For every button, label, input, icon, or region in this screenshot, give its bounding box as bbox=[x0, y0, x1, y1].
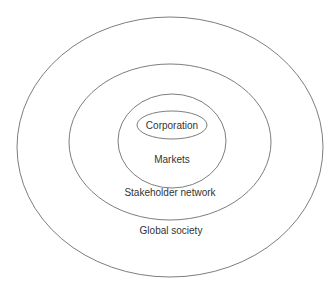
corporation-label: Corporation bbox=[146, 121, 198, 131]
markets-ellipse bbox=[118, 94, 226, 188]
diagram-canvas bbox=[0, 0, 336, 290]
stakeholder-network-label: Stakeholder network bbox=[124, 188, 215, 198]
markets-label: Markets bbox=[154, 155, 190, 165]
global-society-label: Global society bbox=[140, 226, 203, 236]
global-society-ellipse bbox=[17, 17, 323, 277]
